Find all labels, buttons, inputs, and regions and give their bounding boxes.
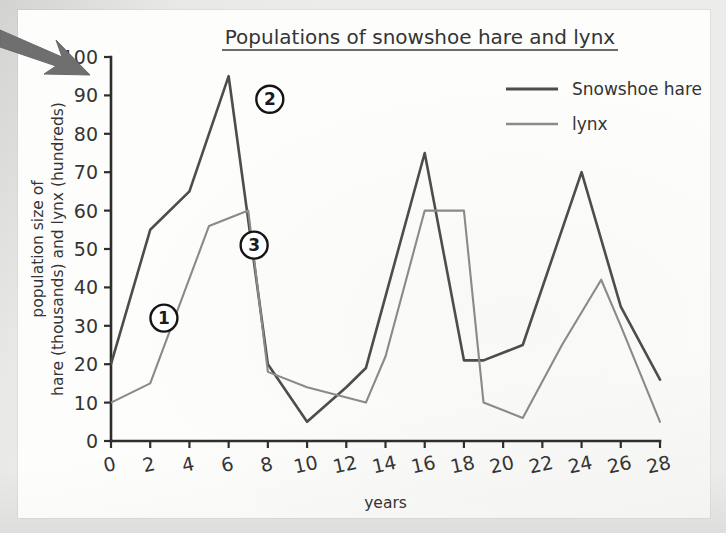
x-tick-label: 0 (101, 452, 117, 476)
x-tick-label: 22 (527, 451, 555, 478)
x-tick-label: 12 (331, 451, 359, 478)
y-tick-label: 10 (74, 392, 98, 414)
legend-item-1[interactable]: Snowshoe hare (506, 79, 702, 99)
y-tick-label: 90 (74, 84, 98, 106)
y-tick-label: 20 (74, 353, 98, 375)
y-tick-label: 70 (74, 161, 98, 183)
annotation-number: 3 (248, 235, 260, 255)
legend-label: Snowshoe hare (572, 79, 702, 99)
x-axis-title: years (364, 494, 407, 512)
chart-title: Populations of snowshoe hare and lynx (222, 25, 618, 50)
y-tick-label: 30 (74, 315, 98, 337)
chart-legend[interactable]: Snowshoe harelynx (506, 79, 702, 134)
y-axis-title: population size ofhare (thousands) and l… (29, 102, 66, 396)
y-tick-label: 80 (74, 123, 98, 145)
x-tick-label: 28 (644, 451, 672, 478)
x-tick-label: 20 (488, 451, 516, 478)
y-tick-label: 40 (74, 276, 98, 298)
x-tick-label: 10 (291, 451, 319, 478)
x-tick-label: 16 (409, 451, 437, 478)
y-axis-title-line: hare (thousands) and lynx (hundreds) (49, 102, 67, 396)
chart-title-text: Populations of snowshoe hare and lynx (225, 25, 616, 49)
annotation-marker-2: 2 (256, 86, 283, 113)
x-tick-label: 24 (566, 451, 594, 478)
y-tick-label: 60 (74, 200, 98, 222)
legend-label: lynx (572, 114, 608, 134)
y-tick-label: 0 (86, 430, 98, 452)
x-tick-label: 6 (219, 452, 235, 476)
y-axis-tick-labels: 0102030405060708090100 (62, 46, 98, 452)
x-tick-label: 2 (141, 452, 157, 476)
x-tick-label: 26 (605, 451, 633, 478)
x-axis-tick-labels: 0246810121416182022242628 (101, 451, 672, 478)
y-tick-label: 50 (74, 238, 98, 260)
series-line-2 (111, 211, 660, 422)
x-tick-label: 18 (448, 451, 476, 478)
annotation-marker-1: 1 (150, 305, 177, 332)
legend-item-2[interactable]: lynx (506, 114, 608, 134)
annotation-marker-3: 3 (241, 232, 268, 259)
annotation-number: 1 (158, 308, 170, 328)
x-tick-label: 4 (180, 452, 196, 476)
x-tick-label: 14 (370, 451, 398, 478)
y-tick-label: 100 (62, 46, 98, 68)
x-tick-label: 8 (258, 452, 274, 476)
y-axis-title-line: population size of (29, 180, 47, 318)
annotation-number: 2 (264, 89, 276, 109)
population-line-chart: 0102030405060708090100 02468101214161820… (0, 0, 726, 533)
